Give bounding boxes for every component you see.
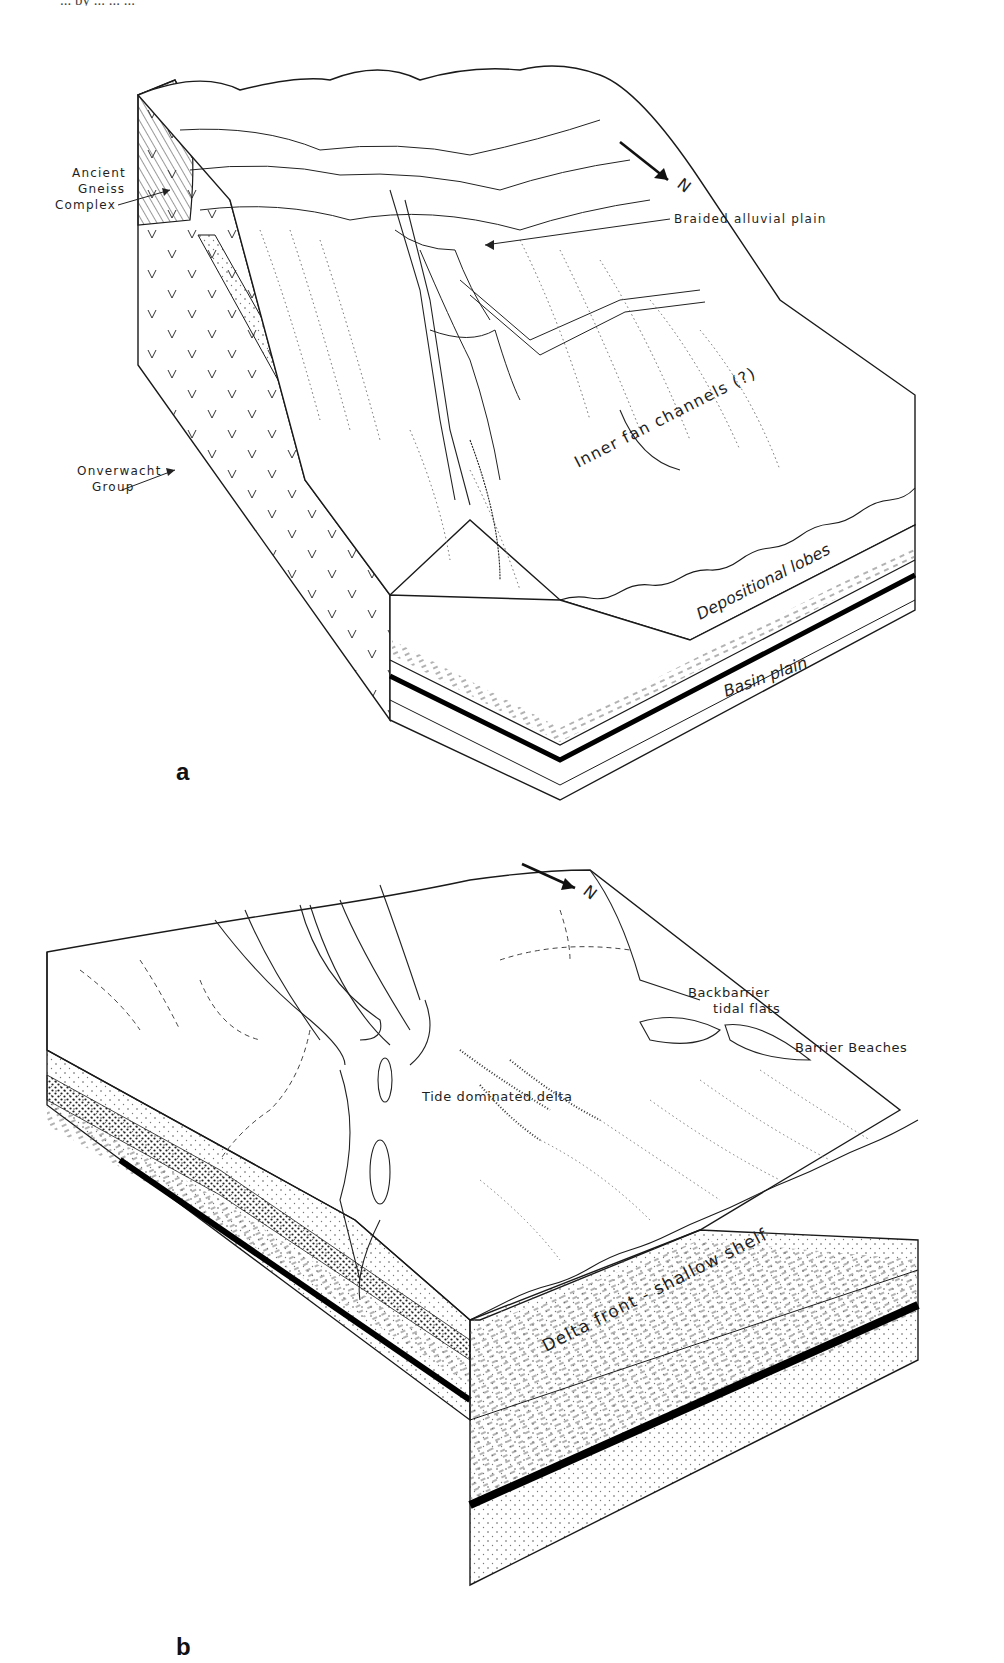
panel-a-block-diagram: [118, 66, 915, 800]
label-onverwacht-line2: Group: [92, 480, 135, 494]
panel-b-block-diagram: [47, 864, 918, 1585]
label-onverwacht-line1: Onverwacht: [77, 464, 162, 478]
label-braided-alluvial-plain: Braided alluvial plain: [674, 212, 827, 226]
geologic-block-diagram-figure: ... by ... ... ...: [0, 0, 1004, 1663]
panel-letter-a: a: [176, 758, 190, 785]
label-tide-dominated-delta: Tide dominated delta: [421, 1089, 573, 1104]
label-backbarrier-line2: tidal flats: [713, 1001, 780, 1016]
label-ancient-gneiss-line3: Complex: [55, 198, 116, 212]
label-barrier-beaches: Barrier Beaches: [795, 1040, 907, 1055]
label-ancient-gneiss-line2: Gneiss: [78, 182, 125, 196]
label-ancient-gneiss-line1: Ancient: [72, 166, 126, 180]
label-backbarrier-line1: Backbarrier: [688, 985, 770, 1000]
panel-letter-b: b: [176, 1633, 191, 1660]
